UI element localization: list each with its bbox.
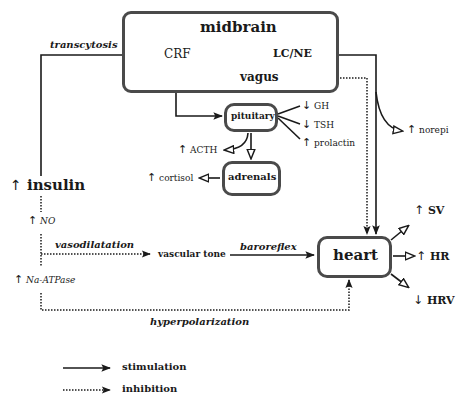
edge-heart-sv [391, 226, 408, 240]
edge-pituitary-acth [225, 133, 248, 150]
adrenals-node: adrenals [228, 172, 276, 182]
edge-pituitary-prolactin [278, 118, 300, 139]
hr-output: ↑ HR [416, 250, 449, 262]
edge-hyperpolarization [41, 280, 349, 310]
legend-stimulation-label: stimulation [122, 362, 187, 372]
up-arrow-icon: ↑ [416, 249, 426, 263]
down-arrow-icon: ↓ [302, 118, 311, 131]
vasodilatation-label: vasodilatation [55, 240, 134, 250]
up-arrow-icon: ↑ [178, 143, 187, 156]
up-arrow-icon: ↑ [302, 136, 311, 149]
prolactin-output: ↑ prolactin [302, 137, 355, 148]
down-arrow-icon: ↓ [302, 99, 311, 112]
sv-output: ↑ SV [414, 204, 444, 216]
heart-node: heart [333, 248, 378, 263]
vascular-tone-node: vascular tone [158, 250, 226, 259]
insulin-node: ↑ insulin [10, 178, 85, 193]
lcne-node: LC/NE [273, 48, 312, 59]
tsh-output: ↓ TSH [302, 119, 334, 130]
up-arrow-icon: ↑ [147, 171, 156, 184]
cortisol-output: ↑ cortisol [147, 172, 193, 183]
norepi-output: ↑ norepi [407, 124, 449, 135]
pituitary-node: pituitary [231, 112, 275, 121]
up-arrow-icon: ↑ [414, 203, 424, 217]
up-arrow-icon: ↑ [10, 177, 22, 193]
insulin-cardiac-pathway-diagram: midbrain CRF LC/NE vagus transcytosis pi… [0, 0, 461, 405]
up-arrow-icon: ↑ [14, 273, 23, 286]
hrv-output: ↓ HRV [413, 294, 455, 306]
edge-heart-hrv [391, 274, 408, 287]
vagus-node: vagus [240, 71, 279, 83]
acth-output: ↑ ACTH [178, 144, 217, 155]
midbrain-label: midbrain [200, 20, 277, 35]
crf-node: CRF [164, 48, 191, 60]
no-output: ↑ NO [28, 215, 55, 226]
transcytosis-label: transcytosis [50, 40, 118, 50]
legend-inhibition-label: inhibition [122, 384, 177, 394]
edge-lcne-norepi [376, 92, 402, 131]
baroreflex-label: baroreflex [240, 242, 297, 252]
down-arrow-icon: ↓ [413, 293, 423, 307]
edge-pituitary-gh [278, 106, 300, 114]
na-atpase-output: ↑ Na-ATPase [14, 274, 75, 285]
edge-pituitary-tsh [278, 116, 300, 124]
up-arrow-icon: ↑ [407, 123, 416, 136]
hyperpolarization-label: hyperpolarization [150, 317, 249, 327]
gh-output: ↓ GH [302, 100, 329, 111]
up-arrow-icon: ↑ [28, 214, 37, 227]
